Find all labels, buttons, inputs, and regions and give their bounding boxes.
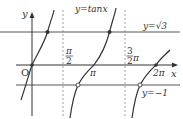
function-label: y=tanx [74, 4, 107, 14]
tick-label-2pi: 2π [152, 68, 166, 78]
asymptote-label-pi-den: 2 [66, 56, 72, 66]
origin-label: O [21, 67, 29, 78]
line-label-sqrt3: y=√3 [142, 21, 167, 31]
tan-curve-branch-1 [21, 10, 54, 100]
x-axis-label: x [171, 68, 177, 79]
point-2pi [154, 63, 158, 67]
asymptote-label-3pi-suffix: π [132, 53, 140, 63]
asymptote-label-3pi-den: 2 [127, 56, 133, 66]
x-axis-arrow-icon [172, 63, 178, 68]
point-7pi-over-4 [138, 83, 142, 87]
y-axis-arrow-icon [30, 12, 35, 18]
point-4pi-over-3 [108, 30, 112, 34]
point-origin [30, 63, 34, 67]
tan-graph: y O x y=tanx y=√3 y=−1 π 2 3 2 π π 2π [0, 0, 183, 119]
tick-label-pi: π [89, 68, 97, 78]
point-pi-over-3 [46, 30, 50, 34]
y-axis-label: y [21, 8, 28, 19]
asymptote-label-pi-num: π [65, 46, 73, 56]
tan-curve-branch-2 [70, 8, 116, 118]
point-3pi-over-4 [76, 83, 80, 87]
line-label-minus1: y=−1 [141, 88, 168, 98]
